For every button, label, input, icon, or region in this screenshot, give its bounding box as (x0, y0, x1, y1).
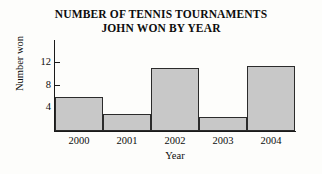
bar-series (55, 40, 295, 131)
chart-title-line-2: JOHN WON BY YEAR (0, 22, 322, 36)
y-tick-label-4: 4 (31, 102, 51, 113)
bar-2003 (199, 117, 247, 131)
bar-2001 (103, 114, 151, 131)
x-axis-title: Year (55, 150, 295, 162)
y-tick-label-text: 12 (31, 57, 51, 68)
y-tick-label-12: 12 (31, 57, 51, 68)
bar-2000 (55, 97, 103, 131)
bar-2002 (151, 68, 199, 131)
x-axis-tick-labels: 20002001200220032004 (55, 135, 295, 149)
chart-title: NUMBER OF TENNIS TOURNAMENTS JOHN WON BY… (0, 8, 322, 35)
x-tick-label-2003: 2003 (199, 135, 247, 147)
y-tick-label-text: 8 (31, 80, 51, 91)
y-tick-label-8: 8 (31, 80, 51, 91)
bar-chart: NUMBER OF TENNIS TOURNAMENTS JOHN WON BY… (0, 0, 322, 174)
bar-2004 (247, 66, 295, 131)
x-tick-label-2001: 2001 (103, 135, 151, 147)
x-tick-label-2000: 2000 (55, 135, 103, 147)
y-axis-title: Number won (14, 26, 25, 102)
x-tick-label-2002: 2002 (151, 135, 199, 147)
x-tick-label-2004: 2004 (247, 135, 295, 147)
chart-title-line-1: NUMBER OF TENNIS TOURNAMENTS (55, 8, 267, 20)
x-axis-line (55, 131, 296, 132)
y-tick-label-text: 4 (31, 102, 51, 113)
